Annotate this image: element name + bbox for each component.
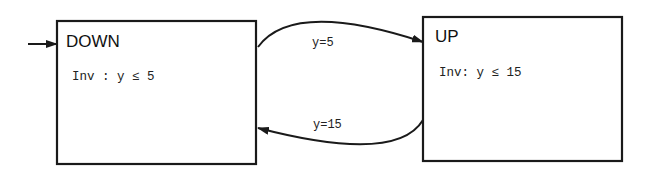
state-down-title: DOWN (66, 32, 120, 51)
transition-down-to-up-guard: y=5 (312, 36, 334, 50)
transition-up-to-down-guard: y=15 (313, 118, 342, 132)
state-up-invariant: Inv: y ≤ 15 (439, 66, 522, 80)
state-up[interactable]: UP Inv: y ≤ 15 (423, 17, 622, 161)
state-up-title: UP (435, 27, 459, 46)
transition-down-to-up[interactable]: y=5 (258, 22, 423, 50)
state-down-invariant: Inv : y ≤ 5 (72, 70, 155, 84)
state-down[interactable]: DOWN Inv : y ≤ 5 (57, 21, 256, 164)
transition-up-to-down[interactable]: y=15 (258, 118, 423, 144)
automaton-diagram: DOWN Inv : y ≤ 5 UP Inv: y ≤ 15 y=5 y=15 (0, 0, 652, 176)
transition-down-to-up-arrow (258, 22, 423, 47)
